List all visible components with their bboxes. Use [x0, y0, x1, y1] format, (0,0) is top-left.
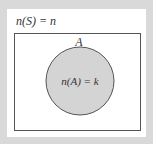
set-a-label: n(A) = k: [61, 75, 99, 88]
venn-diagram: A n(A) = k: [0, 0, 153, 144]
